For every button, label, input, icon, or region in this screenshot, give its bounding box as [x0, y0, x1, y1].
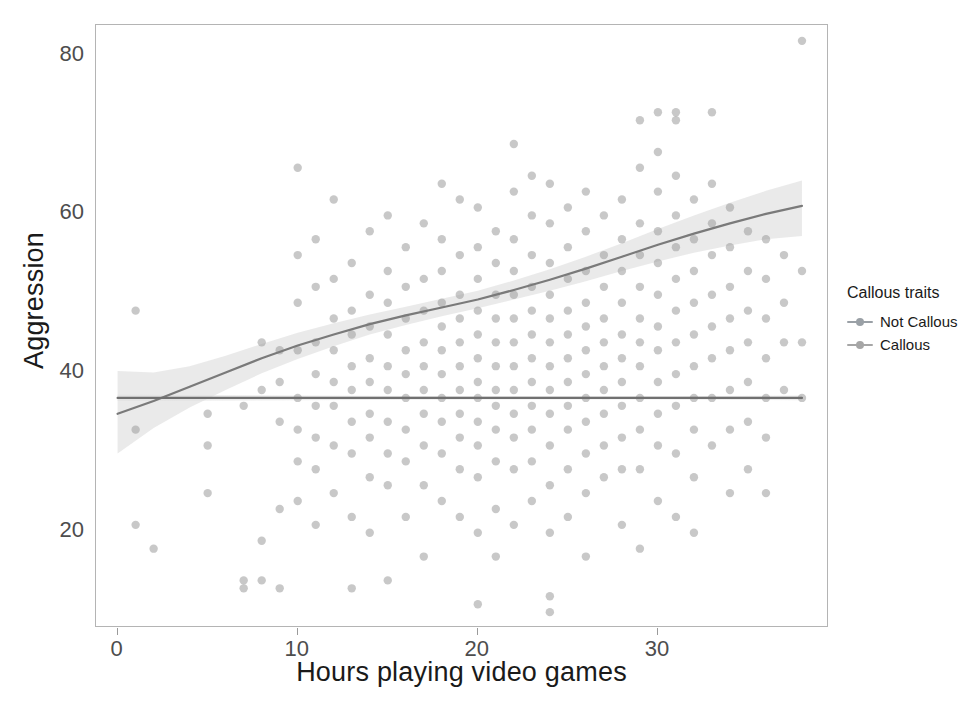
x-tick-mark	[657, 628, 658, 635]
data-point	[546, 592, 554, 600]
data-point	[690, 235, 698, 243]
data-point	[384, 576, 392, 584]
data-point	[762, 235, 770, 243]
data-point	[600, 362, 608, 370]
data-point	[402, 346, 410, 354]
data-point	[636, 116, 644, 124]
data-point	[384, 267, 392, 275]
legend-key-icon	[847, 336, 873, 354]
data-point	[420, 552, 428, 560]
data-point	[546, 179, 554, 187]
data-point	[600, 251, 608, 259]
data-point	[438, 299, 446, 307]
data-point	[708, 179, 716, 187]
data-point	[438, 267, 446, 275]
data-point	[456, 513, 464, 521]
data-point	[564, 425, 572, 433]
data-point	[654, 346, 662, 354]
data-point	[618, 299, 626, 307]
data-point	[564, 354, 572, 362]
data-point	[276, 418, 284, 426]
data-point	[546, 608, 554, 616]
data-point	[492, 386, 500, 394]
data-point	[438, 179, 446, 187]
data-point	[294, 251, 302, 259]
data-point	[312, 521, 320, 529]
data-point	[456, 362, 464, 370]
data-point	[744, 306, 752, 314]
data-point	[600, 441, 608, 449]
data-point	[564, 306, 572, 314]
data-point	[708, 291, 716, 299]
data-point	[510, 267, 518, 275]
data-point	[366, 378, 374, 386]
data-point	[456, 291, 464, 299]
data-point	[726, 489, 734, 497]
data-point	[402, 425, 410, 433]
data-point	[744, 418, 752, 426]
data-point	[420, 481, 428, 489]
data-point	[474, 330, 482, 338]
data-point	[384, 481, 392, 489]
data-point	[600, 338, 608, 346]
data-point	[654, 441, 662, 449]
data-point	[438, 449, 446, 457]
data-point	[726, 283, 734, 291]
data-point	[600, 473, 608, 481]
data-point	[690, 299, 698, 307]
data-point	[510, 465, 518, 473]
data-point	[690, 195, 698, 203]
data-point	[312, 235, 320, 243]
data-point	[276, 378, 284, 386]
data-point	[672, 116, 680, 124]
data-point	[690, 362, 698, 370]
data-point	[744, 227, 752, 235]
data-point	[654, 410, 662, 418]
data-point	[672, 306, 680, 314]
legend-title: Callous traits	[847, 284, 965, 302]
data-point	[474, 306, 482, 314]
data-point	[528, 425, 536, 433]
data-point	[492, 338, 500, 346]
data-point	[510, 362, 518, 370]
data-point	[798, 338, 806, 346]
data-point	[366, 227, 374, 235]
data-point	[402, 283, 410, 291]
data-point	[618, 465, 626, 473]
data-point	[492, 505, 500, 513]
data-point	[510, 187, 518, 195]
data-point	[744, 465, 752, 473]
data-point	[708, 219, 716, 227]
data-point	[294, 299, 302, 307]
data-point	[546, 362, 554, 370]
data-point	[654, 291, 662, 299]
data-point	[762, 275, 770, 283]
data-point	[257, 338, 265, 346]
data-point	[474, 275, 482, 283]
data-point	[402, 243, 410, 251]
data-point	[582, 346, 590, 354]
data-point	[131, 425, 139, 433]
data-point	[474, 354, 482, 362]
data-point	[672, 275, 680, 283]
data-point	[474, 600, 482, 608]
legend-item-not-callous[interactable]: Not Callous	[847, 311, 965, 332]
data-point	[708, 441, 716, 449]
data-point	[330, 346, 338, 354]
data-point	[510, 338, 518, 346]
data-point	[294, 425, 302, 433]
data-point	[510, 386, 518, 394]
data-point	[203, 410, 211, 418]
data-point	[600, 211, 608, 219]
data-point	[149, 544, 157, 552]
data-point	[528, 172, 536, 180]
data-point	[654, 259, 662, 267]
data-point	[654, 322, 662, 330]
data-point	[420, 441, 428, 449]
data-point	[654, 497, 662, 505]
legend-item-callous[interactable]: Callous	[847, 334, 965, 355]
data-point	[672, 243, 680, 251]
data-point	[474, 203, 482, 211]
data-point	[348, 513, 356, 521]
data-point	[672, 513, 680, 521]
